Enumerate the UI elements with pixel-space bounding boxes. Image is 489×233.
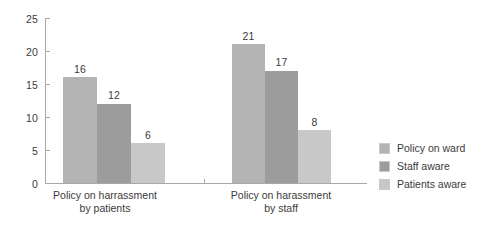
bar-chart: 0510152025 1612621178 Policy on harrassm… (0, 0, 489, 233)
bar-value-label: 6 (145, 130, 151, 141)
bar: 6 (131, 143, 165, 183)
plot-area: 1612621178 (45, 18, 365, 183)
legend-item-label: Staff aware (397, 161, 450, 172)
y-axis-tick-label: 0 (32, 178, 38, 189)
bar: 17 (265, 71, 298, 183)
y-axis-tick-label: 15 (26, 79, 38, 90)
y-axis-tick-label: 5 (32, 145, 38, 156)
x-axis-line (45, 183, 367, 184)
legend-item-patients-aware: Patients aware (379, 175, 466, 193)
legend: Policy on ward Staff aware Patients awar… (379, 139, 466, 193)
group-label-line-1: Policy on harassment (215, 189, 347, 202)
bar-value-label: 8 (311, 117, 317, 128)
y-axis-tick-label: 20 (26, 46, 38, 57)
legend-item-label: Policy on ward (397, 143, 465, 154)
bar: 12 (97, 104, 131, 183)
bar-value-label: 16 (74, 64, 86, 75)
legend-swatch-icon (379, 143, 390, 154)
x-axis-group-label-0: Policy on harrassment by patients (39, 189, 171, 215)
x-axis-group-label-1: Policy on harassment by staff (215, 189, 347, 215)
bar: 21 (232, 44, 265, 183)
legend-item-label: Patients aware (397, 179, 466, 190)
bar-value-label: 17 (275, 57, 287, 68)
group-label-line-1: Policy on harrassment (39, 189, 171, 202)
bar-value-label: 21 (242, 31, 254, 42)
group-label-line-2: by staff (215, 202, 347, 215)
y-axis-tick-label: 25 (26, 13, 38, 24)
y-axis-tick-label: 10 (26, 112, 38, 123)
legend-swatch-icon (379, 161, 390, 172)
legend-item-policy-on-ward: Policy on ward (379, 139, 466, 157)
bar: 8 (298, 130, 331, 183)
bar-value-label: 12 (108, 90, 120, 101)
group-label-line-2: by patients (39, 202, 171, 215)
legend-swatch-icon (379, 179, 390, 190)
legend-item-staff-aware: Staff aware (379, 157, 466, 175)
bar: 16 (63, 77, 97, 183)
